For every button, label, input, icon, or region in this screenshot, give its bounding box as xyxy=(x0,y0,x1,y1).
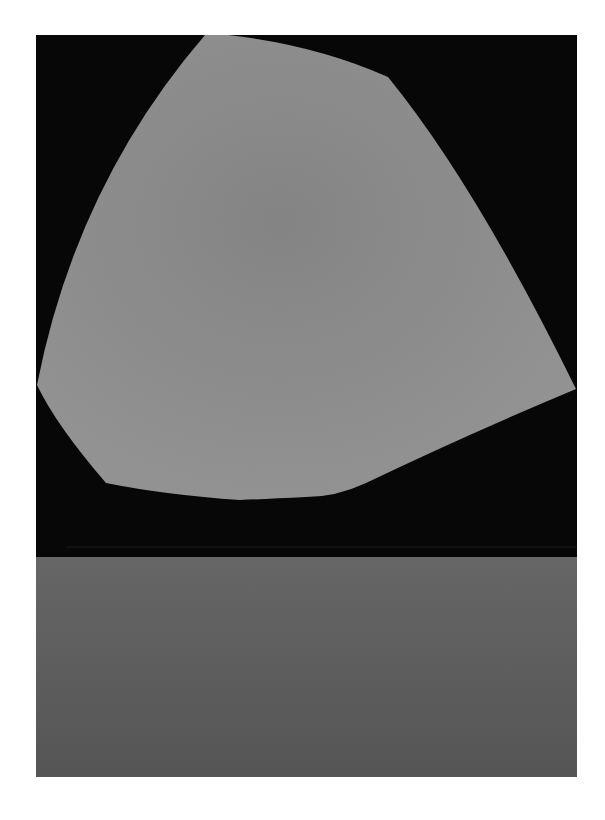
abstract-artwork xyxy=(36,35,577,777)
artwork-canvas xyxy=(36,35,577,777)
gray-band xyxy=(36,557,577,777)
